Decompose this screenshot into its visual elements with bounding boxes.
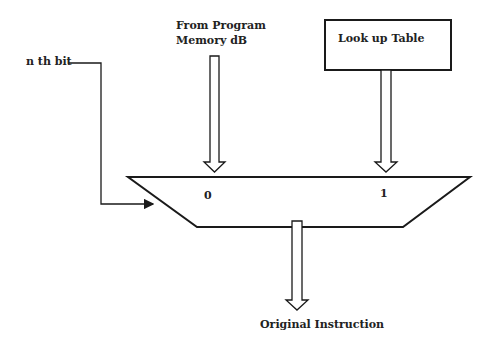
lookup-table-box — [325, 20, 451, 70]
lookup-table-arrow — [375, 70, 397, 172]
program-memory-label-2: Memory dB — [176, 34, 247, 47]
output-label: Original Instruction — [260, 318, 384, 331]
multiplexer — [128, 177, 470, 227]
output-arrow — [286, 221, 308, 310]
mux-input-1-label: 1 — [380, 187, 388, 200]
lookup-table-label: Look up Table — [338, 32, 425, 45]
nth-bit-label: n th bit — [26, 55, 72, 68]
mux-input-0-label: 0 — [204, 189, 212, 202]
mux-diagram — [0, 0, 494, 352]
program-memory-arrow — [204, 56, 225, 172]
program-memory-label-1: From Program — [176, 19, 266, 32]
